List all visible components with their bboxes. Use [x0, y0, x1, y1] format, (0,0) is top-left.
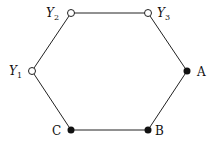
edge-c-y1 [32, 71, 71, 130]
label-y2: Y2 [46, 6, 59, 22]
label-a: A [196, 65, 206, 79]
node-c [68, 127, 75, 134]
label-b: B [155, 124, 164, 138]
edge-y1-y2 [32, 13, 71, 71]
node-y1 [29, 68, 36, 75]
label-y1: Y1 [9, 64, 22, 80]
node-a [184, 68, 191, 75]
node-b [145, 127, 152, 134]
label-y3: Y3 [157, 6, 170, 22]
edges [32, 13, 187, 130]
node-y2 [68, 10, 75, 17]
hexagon-diagram: Y1 Y2 Y3 A B C [0, 0, 218, 147]
node-y3 [145, 10, 152, 17]
edge-a-b [148, 71, 187, 130]
label-c: C [52, 124, 61, 138]
